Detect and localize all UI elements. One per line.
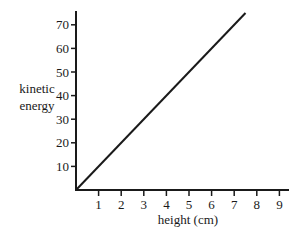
x-tick-label: 9 xyxy=(276,197,283,212)
y-tick-label: 40 xyxy=(56,88,69,103)
x-tick-label: 7 xyxy=(231,197,238,212)
y-ticks: 10203040506070 xyxy=(56,17,76,174)
x-tick-label: 3 xyxy=(141,197,148,212)
y-tick-label: 70 xyxy=(56,17,69,32)
x-tick-label: 8 xyxy=(254,197,261,212)
x-ticks: 123456789 xyxy=(95,190,282,212)
y-tick-label: 20 xyxy=(56,135,69,150)
x-tick-label: 6 xyxy=(208,197,215,212)
x-axis-label: height (cm) xyxy=(158,212,218,227)
x-tick-label: 1 xyxy=(95,197,102,212)
y-tick-label: 30 xyxy=(56,112,69,127)
chart: 10203040506070 123456789 kinetic energy … xyxy=(0,0,303,240)
y-tick-label: 50 xyxy=(56,65,69,80)
y-axis-label-line2: energy xyxy=(19,98,55,113)
y-tick-label: 60 xyxy=(56,41,69,56)
data-line xyxy=(76,13,246,190)
y-axis-label-line1: kinetic xyxy=(19,81,55,96)
x-tick-label: 5 xyxy=(186,197,193,212)
y-tick-label: 10 xyxy=(56,159,69,174)
x-tick-label: 2 xyxy=(118,197,125,212)
x-tick-label: 4 xyxy=(163,197,170,212)
